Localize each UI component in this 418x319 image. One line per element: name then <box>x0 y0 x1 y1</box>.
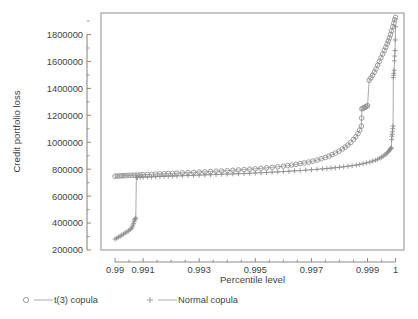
data-point-marker <box>286 169 291 174</box>
data-point-marker <box>298 168 303 173</box>
data-point-marker <box>303 168 308 173</box>
legend-plus-marker <box>147 297 153 303</box>
data-point-marker <box>333 165 338 170</box>
x-tick-label: 0.991 <box>131 265 154 275</box>
data-point-marker <box>354 163 359 168</box>
data-point-marker <box>370 159 375 164</box>
data-point-marker <box>281 169 286 174</box>
series-t3-copula <box>113 15 398 179</box>
y-tick-label: 200000 <box>52 245 83 255</box>
data-point-marker <box>292 168 297 173</box>
y-tick-label: 800000 <box>52 165 83 175</box>
y-tick-label: 1600000 <box>47 57 83 67</box>
data-point-marker <box>357 162 362 167</box>
x-tick-label: 0.99 <box>106 265 124 275</box>
x-axis: 0.990.9910.9930.9950.9970.9991 <box>106 258 398 275</box>
data-point-marker <box>391 124 396 129</box>
data-point-marker <box>247 171 252 176</box>
y-tick-label: 400000 <box>52 218 83 228</box>
legend-item-t3-copula[interactable]: t(3) copula <box>23 295 98 305</box>
chart-figure: 2000004000006000008000001000000120000014… <box>0 0 418 319</box>
series-normal-copula <box>113 24 399 241</box>
data-point-marker <box>341 164 346 169</box>
legend-label: t(3) copula <box>54 295 99 305</box>
data-point-marker <box>133 216 138 221</box>
x-tick-label: 0.993 <box>188 265 211 275</box>
data-point-marker <box>337 165 342 170</box>
data-point-marker <box>364 160 369 165</box>
data-point-marker <box>253 170 258 175</box>
data-point-marker <box>350 163 355 168</box>
data-point-marker <box>270 170 275 175</box>
data-point-marker <box>392 58 397 63</box>
legend-item-normal-copula[interactable]: Normal copula <box>147 295 239 305</box>
x-tick-label: 0.999 <box>356 265 379 275</box>
data-point-marker <box>315 167 320 172</box>
y-tick-label: 1800000 <box>47 30 83 40</box>
data-point-marker <box>393 37 398 42</box>
credit-portfolio-loss-chart: 2000004000006000008000001000000120000014… <box>0 0 418 319</box>
data-series-group <box>113 15 399 242</box>
x-tick-label: 0.997 <box>300 265 323 275</box>
series-polyline <box>115 27 396 239</box>
series-polyline <box>115 17 396 176</box>
data-point-marker <box>275 169 280 174</box>
data-point-marker <box>264 170 269 175</box>
legend-circle-marker <box>23 297 28 302</box>
x-tick-label: 1 <box>393 265 398 275</box>
data-point-marker <box>367 160 372 165</box>
x-axis-title: Percentile level <box>220 274 285 285</box>
data-point-marker <box>392 54 397 59</box>
data-point-marker <box>258 170 263 175</box>
data-point-marker <box>373 158 378 163</box>
y-axis-title: Credit portfolio loss <box>11 90 22 172</box>
y-tick-label: 1400000 <box>47 84 83 94</box>
data-point-marker <box>309 167 314 172</box>
y-tick-label: 1000000 <box>47 138 83 148</box>
data-point-marker <box>242 171 247 176</box>
y-axis: 2000004000006000008000001000000120000014… <box>47 21 91 255</box>
data-point-marker <box>361 161 366 166</box>
data-point-marker <box>393 48 398 53</box>
data-point-marker <box>392 68 397 73</box>
y-tick-label: 1200000 <box>47 111 83 121</box>
legend-label: Normal copula <box>178 295 239 305</box>
chart-legend: t(3) copulaNormal copula <box>23 295 238 305</box>
data-point-marker <box>345 164 350 169</box>
y-tick-label: 600000 <box>52 192 83 202</box>
